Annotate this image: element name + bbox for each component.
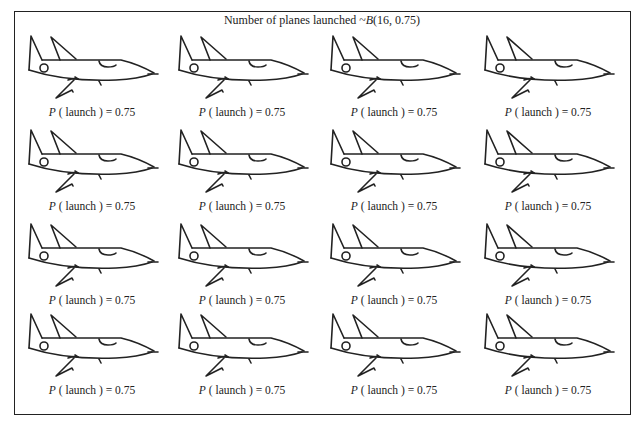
title-prefix: Number of planes launched ~ [224, 13, 366, 27]
plane-icon [26, 34, 166, 104]
plane-cell-r4-c1: P ( launch ) = 0.75 [26, 312, 166, 402]
launch-probability-label: P ( launch ) = 0.75 [26, 384, 158, 396]
plane-cell-r2-c4: P ( launch ) = 0.75 [482, 128, 622, 218]
launch-probability-label: P ( launch ) = 0.75 [26, 106, 158, 118]
plane-icon [176, 312, 316, 382]
plane-icon [26, 128, 166, 198]
title-dist-symbol: B [366, 13, 373, 27]
plane-cell-r4-c2: P ( launch ) = 0.75 [176, 312, 316, 402]
plane-icon [328, 222, 468, 292]
label-p: P [505, 294, 512, 306]
plane-cell-r3-c2: P ( launch ) = 0.75 [176, 222, 316, 312]
launch-probability-label: P ( launch ) = 0.75 [26, 200, 158, 212]
label-rest: ( launch ) = 0.75 [512, 294, 591, 306]
launch-probability-label: P ( launch ) = 0.75 [26, 294, 158, 306]
plane-icon [482, 128, 622, 198]
label-p: P [49, 294, 56, 306]
launch-probability-label: P ( launch ) = 0.75 [328, 106, 460, 118]
label-rest: ( launch ) = 0.75 [206, 384, 285, 396]
label-rest: ( launch ) = 0.75 [206, 200, 285, 212]
label-p: P [199, 294, 206, 306]
plane-icon [482, 222, 622, 292]
plane-icon [176, 34, 316, 104]
launch-probability-label: P ( launch ) = 0.75 [176, 294, 308, 306]
launch-probability-label: P ( launch ) = 0.75 [328, 384, 460, 396]
label-p: P [505, 106, 512, 118]
label-rest: ( launch ) = 0.75 [56, 384, 135, 396]
launch-probability-label: P ( launch ) = 0.75 [176, 106, 308, 118]
label-rest: ( launch ) = 0.75 [56, 200, 135, 212]
label-rest: ( launch ) = 0.75 [358, 200, 437, 212]
label-rest: ( launch ) = 0.75 [206, 106, 285, 118]
launch-probability-label: P ( launch ) = 0.75 [176, 384, 308, 396]
label-rest: ( launch ) = 0.75 [358, 294, 437, 306]
label-p: P [505, 384, 512, 396]
plane-icon [176, 222, 316, 292]
plane-cell-r1-c1: P ( launch ) = 0.75 [26, 34, 166, 124]
diagram-title: Number of planes launched ~B(16, 0.75) [0, 13, 644, 28]
label-rest: ( launch ) = 0.75 [358, 106, 437, 118]
label-p: P [199, 106, 206, 118]
title-params: (16, 0.75) [373, 13, 420, 27]
plane-icon [176, 128, 316, 198]
plane-icon [482, 312, 622, 382]
label-p: P [505, 200, 512, 212]
plane-icon [328, 34, 468, 104]
label-rest: ( launch ) = 0.75 [512, 384, 591, 396]
label-p: P [351, 106, 358, 118]
plane-icon [328, 128, 468, 198]
launch-probability-label: P ( launch ) = 0.75 [482, 200, 614, 212]
label-rest: ( launch ) = 0.75 [56, 106, 135, 118]
plane-icon [482, 34, 622, 104]
plane-cell-r1-c4: P ( launch ) = 0.75 [482, 34, 622, 124]
plane-cell-r4-c4: P ( launch ) = 0.75 [482, 312, 622, 402]
plane-icon [26, 222, 166, 292]
label-rest: ( launch ) = 0.75 [56, 294, 135, 306]
plane-icon [328, 312, 468, 382]
launch-probability-label: P ( launch ) = 0.75 [482, 384, 614, 396]
launch-probability-label: P ( launch ) = 0.75 [482, 106, 614, 118]
plane-cell-r3-c3: P ( launch ) = 0.75 [328, 222, 468, 312]
label-rest: ( launch ) = 0.75 [358, 384, 437, 396]
launch-probability-label: P ( launch ) = 0.75 [328, 294, 460, 306]
label-rest: ( launch ) = 0.75 [512, 200, 591, 212]
plane-cell-r2-c2: P ( launch ) = 0.75 [176, 128, 316, 218]
label-p: P [351, 294, 358, 306]
plane-cell-r1-c3: P ( launch ) = 0.75 [328, 34, 468, 124]
label-p: P [49, 200, 56, 212]
launch-probability-label: P ( launch ) = 0.75 [328, 200, 460, 212]
launch-probability-label: P ( launch ) = 0.75 [482, 294, 614, 306]
plane-cell-r2-c3: P ( launch ) = 0.75 [328, 128, 468, 218]
plane-cell-r1-c2: P ( launch ) = 0.75 [176, 34, 316, 124]
plane-cell-r3-c1: P ( launch ) = 0.75 [26, 222, 166, 312]
label-p: P [351, 384, 358, 396]
label-rest: ( launch ) = 0.75 [512, 106, 591, 118]
label-p: P [49, 384, 56, 396]
label-p: P [49, 106, 56, 118]
plane-cell-r3-c4: P ( launch ) = 0.75 [482, 222, 622, 312]
label-p: P [199, 200, 206, 212]
label-p: P [351, 200, 358, 212]
label-rest: ( launch ) = 0.75 [206, 294, 285, 306]
launch-probability-label: P ( launch ) = 0.75 [176, 200, 308, 212]
label-p: P [199, 384, 206, 396]
plane-cell-r4-c3: P ( launch ) = 0.75 [328, 312, 468, 402]
plane-icon [26, 312, 166, 382]
plane-cell-r2-c1: P ( launch ) = 0.75 [26, 128, 166, 218]
